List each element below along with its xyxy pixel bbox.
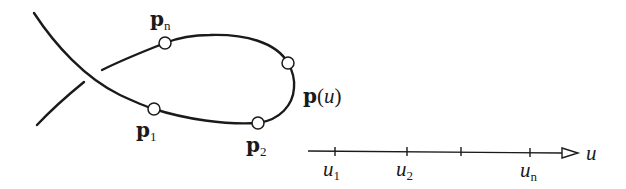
point-p2-marker [252,117,264,129]
point-pn-marker [159,37,171,49]
label-curve-pu: p(u) [303,84,341,108]
axis-line [308,151,562,153]
label-p1: p1 [136,118,156,144]
point-p1-marker [148,103,160,115]
parameter-axis: u1 u2 un u [308,141,597,184]
axis-label-u: u [586,141,597,165]
axis-arrowhead-icon [562,148,578,158]
axis-tick-label-u1: u1 [323,157,340,183]
label-p2: p2 [246,133,266,159]
curve-tail-segment [37,82,84,125]
point-pu-marker [282,57,294,69]
parametric-curve-diagram: pn p1 p2 p(u) u1 u2 un u [0,0,626,189]
axis-tick-label-u2: u2 [396,157,413,183]
axis-tick-label-un: un [520,158,538,184]
label-pn: pn [150,7,171,33]
